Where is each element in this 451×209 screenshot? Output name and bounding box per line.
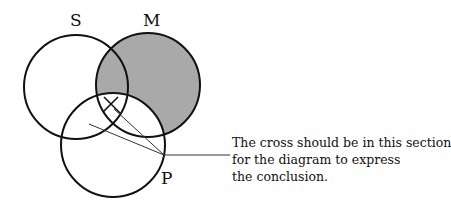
annotation-line-2: for the diagram to express xyxy=(232,151,451,168)
label-p: P xyxy=(161,168,172,188)
annotation-line-1: The cross should be in this section xyxy=(232,134,451,151)
annotation-line-3: the conclusion. xyxy=(232,168,451,185)
label-s: S xyxy=(70,10,82,30)
annotation-text: The cross should be in this section for … xyxy=(232,134,451,185)
label-m: M xyxy=(143,10,160,30)
